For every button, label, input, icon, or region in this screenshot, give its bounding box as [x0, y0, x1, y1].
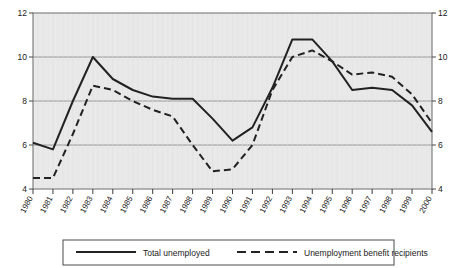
- minor-gridlines: [33, 13, 432, 189]
- y-tick-label-right-6: 6: [438, 140, 443, 150]
- unemployment-line-chart: 4681012 4681012 198019811982198319841985…: [0, 0, 457, 268]
- y-tick-label-left-10: 10: [18, 52, 28, 62]
- y-tick-label-left-8: 8: [22, 96, 27, 106]
- y-tick-label-left-6: 6: [22, 140, 27, 150]
- y-tick-label-right-12: 12: [438, 8, 448, 18]
- y-tick-label-left-12: 12: [18, 8, 28, 18]
- y-tick-label-right-4: 4: [438, 184, 443, 194]
- x-axis-ticks: [33, 189, 432, 194]
- legend-label-benefit-recipients: Unemployment benefit recipients: [304, 248, 428, 258]
- y-tick-label-left-4: 4: [22, 184, 27, 194]
- y-tick-label-right-10: 10: [438, 52, 448, 62]
- legend-label-total-unemployed: Total unemployed: [143, 248, 210, 258]
- y-tick-label-right-8: 8: [438, 96, 443, 106]
